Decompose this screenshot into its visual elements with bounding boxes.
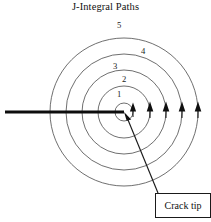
contour-arrow-4 [179, 102, 186, 112]
contour-arrow-3 [163, 102, 170, 112]
contour-arrowheads [130, 102, 201, 119]
contour-label-5: 5 [117, 20, 121, 30]
crack-tip-arrow-icon [124, 112, 131, 121]
contour-arrow-1 [130, 103, 136, 112]
contour-label-4: 4 [141, 46, 146, 56]
contour-labels: 1 2 3 4 5 [113, 20, 146, 99]
contour-arrow-5 [195, 102, 202, 112]
contour-label-2: 2 [122, 74, 126, 84]
crack-tip-callout-box: Crack tip [155, 193, 211, 218]
contour-label-3: 3 [113, 61, 117, 71]
j-integral-diagram: 1 2 3 4 5 [0, 0, 211, 222]
j-integral-figure: J-Integral Paths [0, 0, 211, 222]
contour-arrow-2 [147, 102, 154, 112]
crack-tip-leader-line [126, 115, 158, 193]
contour-label-1: 1 [117, 89, 121, 99]
crack-tip-label: Crack tip [165, 201, 202, 211]
